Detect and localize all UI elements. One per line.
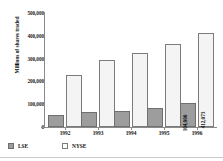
legend-swatch-lse-icon: [8, 143, 14, 149]
bar-value-label: 104,000: [182, 115, 188, 132]
bar-lse-1995[interactable]: [147, 108, 163, 127]
y-axis-ticks: 0100,000200,000300,000400,000500,000: [0, 0, 44, 161]
y-axis-tick-label: 200,000: [4, 78, 44, 84]
bar-group: 104,000412,073: [180, 13, 214, 127]
x-axis-tick-mark: [197, 127, 198, 130]
bar-lse-1992[interactable]: [48, 115, 64, 127]
chart-legend: LSE NYSE: [8, 143, 86, 149]
bar-group: [81, 13, 115, 127]
bar-group: [147, 13, 181, 127]
bar-nyse-1994[interactable]: [132, 53, 148, 127]
x-axis-tick-mark: [98, 127, 99, 130]
page-rule: [0, 157, 223, 158]
x-axis-tick-label: 1996: [177, 130, 217, 136]
x-axis-tick-mark: [65, 127, 66, 130]
y-axis-tick-label: 100,000: [4, 101, 44, 107]
bar-lse-1993[interactable]: [81, 112, 97, 127]
legend-label-lse: LSE: [18, 143, 28, 149]
y-axis-tick-label: 300,000: [4, 56, 44, 62]
bar-nyse-1992[interactable]: [66, 75, 82, 127]
legend-item-nyse[interactable]: NYSE: [62, 143, 86, 149]
y-axis-tick-label: 0: [4, 124, 44, 130]
y-axis-tick-mark: [41, 127, 44, 128]
plot-area: 104,000412,073: [44, 13, 216, 127]
y-axis-tick-label: 500,000: [4, 10, 44, 16]
y-axis-tick-mark: [41, 59, 44, 60]
bar-nyse-1996[interactable]: 412,073: [198, 33, 214, 127]
x-axis-tick-mark: [131, 127, 132, 130]
legend-label-nyse: NYSE: [72, 143, 86, 149]
bar-value-label: 412,073: [200, 112, 206, 129]
y-axis-tick-mark: [41, 104, 44, 105]
y-axis-tick-label: 400,000: [4, 33, 44, 39]
bar-lse-1996[interactable]: 104,000: [180, 103, 196, 127]
legend-item-lse[interactable]: LSE: [8, 143, 28, 149]
bar-group: [114, 13, 148, 127]
bar-group: [48, 13, 82, 127]
y-axis-tick-mark: [41, 13, 44, 14]
bar-nyse-1995[interactable]: [165, 44, 181, 127]
bar-nyse-1993[interactable]: [99, 60, 115, 127]
x-axis-tick-mark: [164, 127, 165, 130]
bar-chart-figure: Millions of shares traded 0100,000200,00…: [0, 0, 223, 161]
legend-swatch-nyse-icon: [62, 143, 68, 149]
y-axis-tick-mark: [41, 36, 44, 37]
y-axis-tick-mark: [41, 81, 44, 82]
bar-lse-1994[interactable]: [114, 111, 130, 127]
